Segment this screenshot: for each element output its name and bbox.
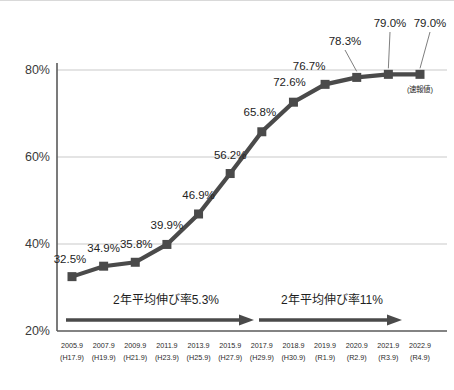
- category-label-year: 2005.9: [61, 341, 83, 350]
- category-label-year: 2009.9: [124, 341, 146, 350]
- x-axis-category-label: 2021.9(R3.9): [377, 341, 399, 362]
- data-point-label: 79.0%: [374, 17, 407, 29]
- data-point-label: 46.9%: [182, 189, 215, 201]
- category-label-year: 2017.9: [251, 341, 273, 350]
- annotation-left-arrowhead: [239, 315, 254, 326]
- data-label-leader-line: [345, 50, 357, 71]
- data-point-marker: [194, 209, 203, 218]
- y-tick-label-80: 80%: [25, 63, 50, 77]
- data-point-marker: [162, 240, 171, 249]
- axes: [57, 63, 447, 331]
- annotation-right-arrowhead: [387, 315, 402, 326]
- annotation-right: 2年平均伸び率11%: [259, 292, 402, 326]
- x-axis-category-label: 2011.9(H23.9): [155, 341, 179, 362]
- data-point-marker: [131, 258, 140, 267]
- gridlines: [57, 70, 447, 244]
- category-label-year: 2015.9: [219, 341, 241, 350]
- category-label-era: (H25.9): [187, 353, 211, 362]
- annotation-left: 2年平均伸び率5.3%: [66, 292, 254, 326]
- data-point-label: 35.8%: [120, 238, 153, 250]
- x-axis-category-label: 2005.9(H17.9): [60, 341, 84, 362]
- category-label-year: 2019.9: [314, 341, 336, 350]
- x-axis-category-label: 2009.9(H21.9): [123, 341, 147, 362]
- data-label-leader-line: [388, 32, 390, 68]
- category-label-era: (R1.9): [315, 353, 335, 362]
- data-point-label: 78.3%: [329, 35, 362, 47]
- x-axis-category-label: 2017.9(H29.9): [250, 341, 274, 362]
- x-axis-category-label: 2018.9(H30.9): [281, 341, 305, 362]
- category-label-year: 2007.9: [93, 341, 115, 350]
- category-label-year: 2021.9: [377, 341, 399, 350]
- category-label-year: 2013.9: [188, 341, 210, 350]
- data-point-label: 79.0%: [414, 17, 447, 29]
- data-point-marker: [99, 262, 108, 271]
- data-point-marker: [321, 80, 330, 89]
- category-label-era: (H17.9): [60, 353, 84, 362]
- category-label-year: 2018.9: [282, 341, 304, 350]
- data-point-marker: [68, 272, 77, 281]
- data-point-marker: [352, 73, 361, 82]
- annotation-right-label: 2年平均伸び率11%: [281, 292, 383, 307]
- data-point-label: 34.9%: [87, 242, 120, 254]
- data-point-marker: [384, 70, 393, 79]
- chart-container: 80% 60% 40% 20% 32.5%34.9%35.8%39.9%46.9…: [0, 0, 454, 390]
- data-point-label: 39.9%: [151, 219, 184, 231]
- data-point-marker: [416, 70, 425, 79]
- category-label-era: (H29.9): [250, 353, 274, 362]
- category-label-year: 2022.9: [409, 341, 431, 350]
- data-point-label: 72.6%: [273, 76, 306, 88]
- x-axis-category-labels: 2005.9(H17.9)2007.9(H19.9)2009.9(H21.9)2…: [60, 341, 431, 362]
- category-label-year: 2011.9: [156, 341, 177, 350]
- y-tick-label-60: 60%: [25, 150, 50, 164]
- line-chart: 80% 60% 40% 20% 32.5%34.9%35.8%39.9%46.9…: [0, 1, 454, 390]
- data-point-marker: [257, 127, 266, 136]
- y-tick-label-20: 20%: [25, 324, 50, 338]
- x-axis-category-label: 2020.9(R2.9): [346, 341, 368, 362]
- preliminary-value-note: (速報値): [407, 84, 433, 94]
- category-label-year: 2020.9: [346, 341, 368, 350]
- data-point-label: 32.5%: [54, 253, 87, 265]
- data-point-labels: 32.5%34.9%35.8%39.9%46.9%56.2%65.8%72.6%…: [54, 17, 447, 265]
- data-point-label: 65.8%: [244, 106, 277, 118]
- category-label-era: (H27.9): [218, 353, 242, 362]
- x-axis-category-label: 2013.9(H25.9): [187, 341, 211, 362]
- x-axis-category-label: 2007.9(H19.9): [92, 341, 116, 362]
- category-label-era: (H23.9): [155, 353, 179, 362]
- annotation-left-label: 2年平均伸び率5.3%: [113, 292, 219, 307]
- data-point-label: 76.7%: [293, 60, 326, 72]
- data-point-marker: [289, 98, 298, 107]
- category-label-era: (R3.9): [378, 353, 398, 362]
- category-label-era: (H21.9): [123, 353, 147, 362]
- category-label-era: (R2.9): [347, 353, 367, 362]
- category-label-era: (H19.9): [92, 353, 116, 362]
- y-axis-tick-labels: 80% 60% 40% 20%: [25, 63, 50, 338]
- category-label-era: (H30.9): [281, 353, 305, 362]
- data-label-leader-line: [420, 32, 430, 68]
- data-point-label: 56.2%: [214, 149, 247, 161]
- data-point-marker: [226, 169, 235, 178]
- x-axis-category-label: 2015.9(H27.9): [218, 341, 242, 362]
- category-label-era: (R4.9): [410, 353, 430, 362]
- x-axis-category-label: 2019.9(R1.9): [314, 341, 336, 362]
- x-axis-category-label: 2022.9(R4.9): [409, 341, 431, 362]
- y-tick-label-40: 40%: [25, 237, 50, 251]
